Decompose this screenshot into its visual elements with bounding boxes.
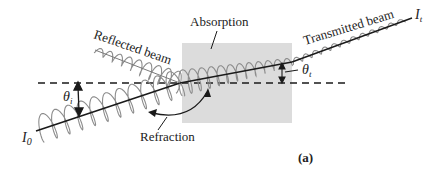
reflected-beam-label: Reflected beam	[92, 27, 174, 68]
panel-label: (a)	[298, 150, 313, 165]
transmitted-angle-subscript: t	[309, 69, 312, 79]
absorption-label: Absorption	[190, 14, 249, 29]
incident-angle-subscript: i	[70, 96, 73, 106]
transmitted-intensity-subscript: t	[420, 14, 423, 24]
transmitted-intensity-label: It	[414, 7, 423, 24]
incident-angle-label: θi	[63, 89, 73, 106]
light-interaction-diagram: Reflected beam Absorption Transmitted be…	[0, 0, 443, 182]
transmitted-angle-label: θt	[302, 62, 312, 79]
incident-intensity-label: I0	[21, 130, 32, 147]
incident-intensity-subscript: 0	[27, 136, 32, 147]
refraction-label: Refraction	[140, 129, 195, 144]
incident-beam-ray	[36, 83, 180, 131]
